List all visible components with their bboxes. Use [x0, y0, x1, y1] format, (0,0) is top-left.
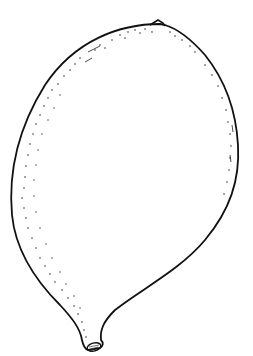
blossom-end [86, 341, 102, 352]
fruit-drawing [0, 0, 253, 356]
fruit-outline [11, 24, 238, 350]
